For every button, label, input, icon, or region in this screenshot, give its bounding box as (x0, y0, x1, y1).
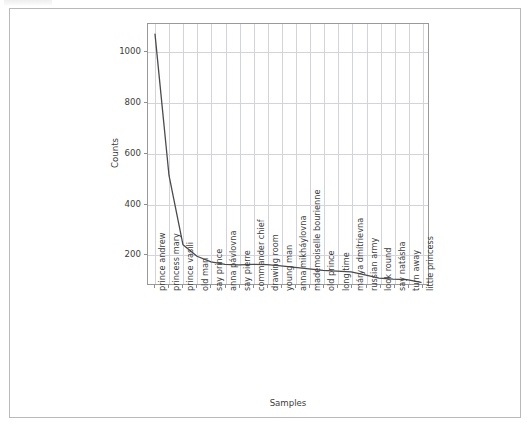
x-tick-label: drawing room (270, 234, 280, 291)
x-tick-label: old prince (326, 250, 336, 291)
x-tick-mark (309, 285, 310, 288)
x-tick-mark (408, 285, 409, 288)
x-tick-mark (182, 285, 183, 288)
top-edge-artifact (4, 0, 52, 6)
y-tick-mark (144, 51, 147, 52)
x-tick-label: anna pávlovna (228, 231, 238, 291)
x-tick-label: little princess (425, 236, 435, 291)
screenshot-root: 2004006008001000prince andrewprincess ma… (0, 0, 531, 427)
x-tick-label: commander chief (256, 219, 266, 291)
x-tick-label: say prince (214, 249, 224, 291)
y-tick-mark (144, 102, 147, 103)
y-tick-label: 400 (107, 199, 141, 209)
matplotlib-figure: 2004006008001000prince andrewprincess ma… (10, 9, 522, 419)
x-tick-mark (281, 285, 282, 288)
y-tick-mark (144, 204, 147, 205)
x-tick-label: say pierre (242, 250, 252, 291)
x-tick-label: old man (200, 258, 210, 291)
x-tick-mark (154, 285, 155, 288)
y-axis-title: Counts (110, 113, 120, 193)
x-tick-mark (225, 285, 226, 288)
x-tick-mark (337, 285, 338, 288)
notebook-output-card: 2004006008001000prince andrewprincess ma… (9, 8, 521, 418)
x-axis-title: Samples (228, 398, 348, 408)
x-tick-mark (366, 285, 367, 288)
x-tick-mark (351, 285, 352, 288)
x-tick-mark (380, 285, 381, 288)
x-tick-mark (295, 285, 296, 288)
x-tick-mark (168, 285, 169, 288)
x-tick-mark (394, 285, 395, 288)
y-tick-mark (144, 153, 147, 154)
x-tick-label: turn away (411, 250, 421, 291)
x-tick-label: prince andrew (157, 233, 167, 292)
x-tick-mark (422, 285, 423, 288)
x-tick-mark (210, 285, 211, 288)
x-tick-label: princess mary (171, 233, 181, 291)
x-tick-label: mademoiselle bourienne (312, 190, 322, 291)
y-tick-mark (144, 254, 147, 255)
x-tick-label: márya dmítrievna (355, 218, 365, 291)
y-tick-label: 800 (107, 97, 141, 107)
x-tick-label: long time (341, 252, 351, 291)
x-tick-label: young man (284, 245, 294, 291)
y-tick-label: 200 (107, 249, 141, 259)
x-tick-mark (196, 285, 197, 288)
x-tick-mark (253, 285, 254, 288)
x-tick-mark (323, 285, 324, 288)
x-tick-mark (239, 285, 240, 288)
x-tick-label: say natásha (397, 241, 407, 291)
x-tick-label: prince vasili (185, 242, 195, 291)
x-tick-label: russian army (369, 238, 379, 291)
y-tick-label: 1000 (107, 46, 141, 56)
x-tick-mark (267, 285, 268, 288)
x-tick-label: anna mikháylovna (298, 216, 308, 291)
x-tick-label: look round (383, 248, 393, 291)
